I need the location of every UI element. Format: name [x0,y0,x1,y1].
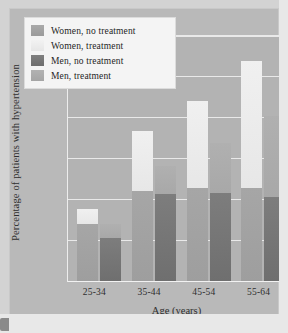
legend-item: Men, no treatment [31,53,169,68]
bar-men [210,143,231,280]
x-tick-label: 45-54 [177,287,232,301]
bar-segment-treatment [77,209,98,224]
bar-men [155,166,176,281]
legend-item: Women, no treatment [31,23,169,38]
bar-women [241,61,262,280]
bar-women [77,209,98,280]
x-tick-label: 35-44 [122,287,177,301]
x-tick-label: 55-64 [231,287,286,301]
chart-legend: Women, no treatmentWomen, treatmentMen, … [24,17,176,89]
legend-item-label: Women, no treatment [51,26,136,36]
legend-swatch-icon [31,55,44,66]
legend-item-label: Men, treatment [51,71,111,81]
bar-men [100,224,121,280]
legend-swatch-icon [31,70,44,81]
bar-segment-no-treatment [132,191,153,280]
bar-segment-no-treatment [187,188,208,280]
legend-swatch-icon [31,40,44,51]
bar-segment-treatment [241,61,262,187]
bar-segment-treatment [132,131,153,192]
bar-women [187,101,208,280]
page-corner-mark [0,318,9,331]
bar-segment-treatment [100,224,121,238]
bar-group [178,36,233,282]
bar-women [132,131,153,281]
page-edge-right [279,0,288,333]
bar-segment-no-treatment [210,193,231,280]
chart-plate: 0102030405060 Percentage of patients wit… [10,9,278,314]
bar-segment-no-treatment [155,194,176,281]
legend-item: Women, treatment [31,38,169,53]
x-axis-tick-labels: 25-3435-4445-5455-64 [67,287,286,301]
legend-swatch-icon [31,25,44,36]
bar-segment-treatment [155,166,176,194]
bar-segment-no-treatment [100,238,121,281]
x-tick-label: 25-34 [67,287,122,301]
y-axis-title: Percentage of patients with hypertension [10,0,21,333]
bar-segment-no-treatment [77,224,98,280]
legend-item-label: Women, treatment [51,41,123,51]
bar-segment-treatment [210,143,231,193]
legend-item-label: Men, no treatment [51,56,123,66]
bar-segment-no-treatment [241,188,262,281]
legend-item: Men, treatment [31,68,169,83]
chart-figure: 0102030405060 Percentage of patients wit… [0,0,288,333]
bar-segment-treatment [187,101,208,188]
page-edge-bottom [0,314,288,333]
